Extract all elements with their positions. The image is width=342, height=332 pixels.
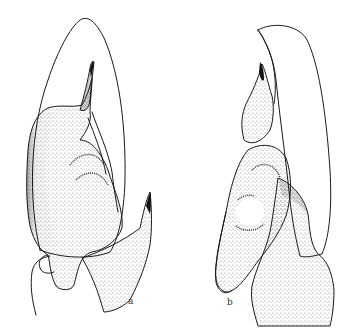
panel-a-label: a <box>128 296 133 306</box>
panel-a-tibia <box>31 256 50 315</box>
panel-b-bulb-circle <box>236 198 264 226</box>
panel-b-label: b <box>227 297 233 307</box>
panel-b-drawing <box>216 25 335 326</box>
panel-a-drawing <box>27 18 152 315</box>
panel-b-embolus-base <box>242 64 273 143</box>
illustration-canvas <box>0 0 342 332</box>
figure: a b <box>0 0 342 332</box>
